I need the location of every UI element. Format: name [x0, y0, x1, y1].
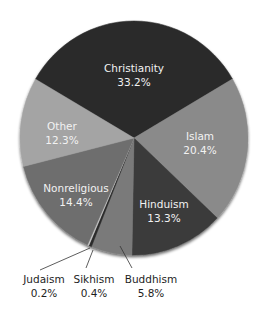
label-christianity: Christianity	[104, 62, 164, 74]
pct-sikhism: 0.4%	[81, 287, 108, 299]
pct-islam: 20.4%	[183, 144, 216, 156]
label-buddhism: Buddhism	[125, 273, 177, 285]
pct-buddhism: 5.8%	[138, 287, 165, 299]
label-nonreligious: Nonreligious	[43, 182, 108, 194]
religion-pie-chart: Christianity 33.2% Islam 20.4% Hinduism …	[0, 0, 264, 321]
label-hinduism: Hinduism	[139, 198, 188, 210]
label-judaism: Judaism	[22, 273, 64, 285]
label-islam: Islam	[186, 130, 214, 142]
label-other: Other	[47, 120, 77, 132]
label-sikhism: Sikhism	[74, 273, 115, 285]
pct-hinduism: 13.3%	[147, 212, 180, 224]
leader-line-sikhism	[86, 250, 93, 268]
pct-nonreligious: 14.4%	[59, 196, 92, 208]
pct-christianity: 33.2%	[117, 76, 150, 88]
leader-line-judaism	[40, 248, 90, 270]
pct-other: 12.3%	[45, 134, 78, 146]
pct-judaism: 0.2%	[31, 287, 58, 299]
